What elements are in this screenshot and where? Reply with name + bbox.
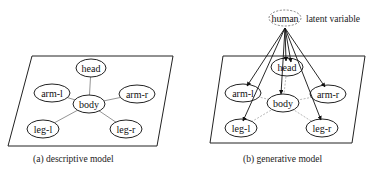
node-label-leg-r: leg-r	[313, 123, 333, 134]
node-head-a: head	[76, 59, 106, 77]
node-leg-l-a: leg-l	[27, 120, 59, 138]
node-body-b: body	[267, 94, 299, 112]
generative-model-diagram: head arm-l arm-r body leg-l leg-r	[210, 10, 365, 165]
node-label-arm-r: arm-r	[126, 89, 149, 100]
figure-canvas: head arm-l arm-r body leg-l leg-r (a) de…	[0, 0, 377, 179]
node-leg-r-a: leg-r	[110, 120, 142, 138]
node-arm-r-b: arm-r	[310, 85, 346, 103]
caption-a: (a) descriptive model	[33, 154, 114, 165]
node-label-human: human	[271, 13, 298, 24]
node-label-arm-l: arm-l	[41, 88, 63, 99]
node-arm-l-a: arm-l	[34, 84, 70, 102]
node-label-head: head	[82, 63, 101, 74]
node-label-arm-r: arm-r	[317, 89, 340, 100]
node-label-leg-r: leg-r	[117, 124, 137, 135]
node-label-body: body	[273, 98, 293, 109]
node-leg-l-b: leg-l	[225, 119, 257, 137]
node-label-leg-l: leg-l	[34, 124, 53, 135]
node-arm-r-a: arm-r	[119, 85, 155, 103]
latent-node-human: human	[269, 10, 301, 26]
node-label-arm-l: arm-l	[232, 88, 254, 99]
caption-b: (b) generative model	[243, 154, 322, 165]
diagram-svg: head arm-l arm-r body leg-l leg-r (a) de…	[0, 0, 377, 179]
node-label-head: head	[278, 62, 297, 73]
node-label-leg-l: leg-l	[232, 123, 251, 134]
node-label-body: body	[79, 99, 99, 110]
descriptive-model-diagram: head arm-l arm-r body leg-l leg-r (a) de…	[8, 56, 173, 165]
node-body-a: body	[73, 95, 105, 113]
latent-variable-label: latent variable	[306, 14, 360, 24]
node-leg-r-b: leg-r	[306, 119, 338, 137]
